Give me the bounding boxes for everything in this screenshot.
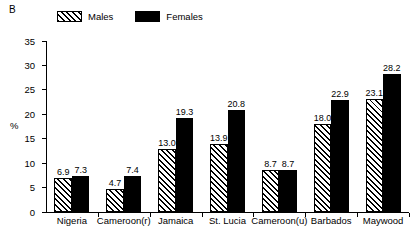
bar-value-label: 20.8: [227, 99, 245, 109]
y-axis-tick-label: 10: [24, 158, 35, 169]
chart-legend: Males Females: [57, 11, 203, 22]
y-axis-tick-label: 15: [24, 133, 35, 144]
x-axis-tick: [202, 213, 203, 217]
bar-value-label: 22.9: [331, 89, 349, 99]
x-axis-tick-label: Maywood: [363, 215, 404, 226]
bar-male: 13.0: [158, 149, 176, 213]
bar-value-label: 7.4: [126, 165, 139, 175]
x-axis-tick: [409, 213, 410, 217]
bar-female: 28.2: [383, 74, 401, 212]
x-axis-tick-label: Cameroon(r): [97, 215, 151, 226]
y-axis-tick: [42, 212, 47, 213]
bar-value-label: 6.9: [57, 167, 70, 177]
y-axis-tick: [42, 65, 47, 66]
y-axis-tick-label: 25: [24, 84, 35, 95]
bar-value-label: 8.7: [264, 159, 277, 169]
bar-male: 13.9: [210, 144, 228, 212]
y-axis-tick-label: 5: [30, 182, 35, 193]
bar-female: 20.8: [228, 110, 246, 212]
legend-swatch-males-icon: [57, 11, 82, 22]
x-axis-tick-label: Nigeria: [57, 215, 87, 226]
y-axis-tick: [42, 138, 47, 139]
legend-item-males: Males: [57, 11, 113, 22]
plot-area: 05101520253035 6.97.34.77.413.019.313.92…: [46, 41, 409, 213]
bar-male: 8.7: [262, 170, 280, 213]
legend-swatch-females-icon: [135, 11, 160, 22]
legend-label-females: Females: [166, 11, 202, 22]
y-axis-tick: [42, 41, 47, 42]
bar-female: 22.9: [331, 100, 349, 212]
y-axis-tick-label: 30: [24, 60, 35, 71]
bar-male: 18.0: [314, 124, 332, 212]
bar-female: 8.7: [279, 170, 297, 213]
bar-value-label: 13.0: [158, 138, 176, 148]
bar-female: 7.3: [72, 176, 90, 212]
y-axis-tick-label: 0: [30, 207, 35, 218]
bar-value-label: 28.2: [383, 63, 401, 73]
bar-value-label: 4.7: [109, 178, 122, 188]
y-axis-tick: [42, 163, 47, 164]
x-axis-tick-label: Cameroon(u): [251, 215, 307, 226]
bar-female: 19.3: [176, 118, 194, 212]
bar-female: 7.4: [124, 176, 142, 212]
y-axis-tick-label: 35: [24, 36, 35, 47]
bar-value-label: 8.7: [282, 159, 295, 169]
legend-label-males: Males: [88, 11, 113, 22]
bar-value-label: 18.0: [314, 113, 332, 123]
x-axis-tick: [357, 213, 358, 217]
bar-chart-figure: B Males Females % 05101520253035 6.97.34…: [0, 0, 419, 241]
bar-value-label: 7.3: [74, 165, 87, 175]
x-axis-tick-label: Jamaica: [158, 215, 193, 226]
bar-value-label: 23.1: [366, 88, 384, 98]
y-axis-tick: [42, 89, 47, 90]
bar-male: 23.1: [366, 99, 384, 212]
y-axis-label: %: [10, 120, 18, 131]
x-axis-tick-label: St. Lucia: [209, 215, 246, 226]
panel-label: B: [9, 4, 16, 16]
x-axis-line: [46, 212, 409, 213]
y-axis-tick-label: 20: [24, 109, 35, 120]
y-axis-tick: [42, 114, 47, 115]
bar-value-label: 13.9: [210, 133, 228, 143]
bar-value-label: 19.3: [176, 107, 194, 117]
bar-male: 6.9: [54, 178, 72, 212]
x-axis-tick-label: Barbados: [311, 215, 352, 226]
legend-item-females: Females: [135, 11, 202, 22]
y-axis-tick: [42, 187, 47, 188]
bar-male: 4.7: [106, 189, 124, 212]
